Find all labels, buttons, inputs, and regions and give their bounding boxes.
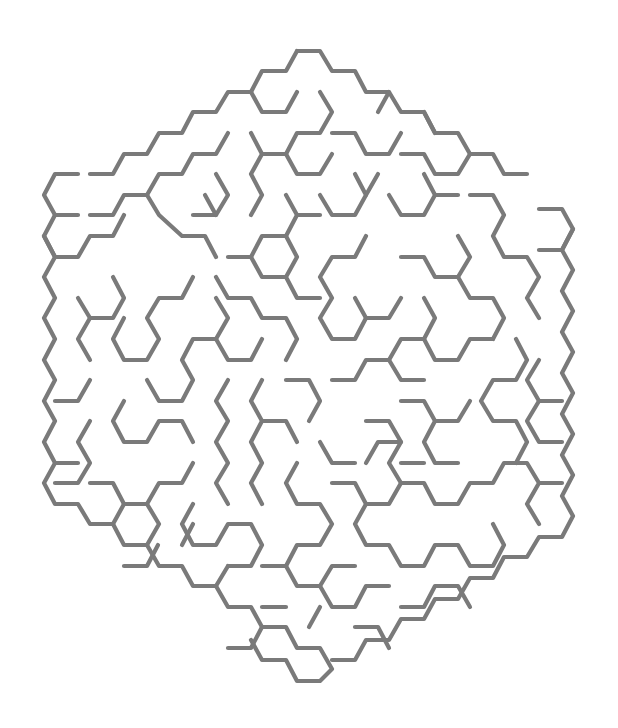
hexagonal-maze bbox=[0, 0, 618, 728]
maze-canvas: hexagon bbox=[0, 0, 618, 728]
